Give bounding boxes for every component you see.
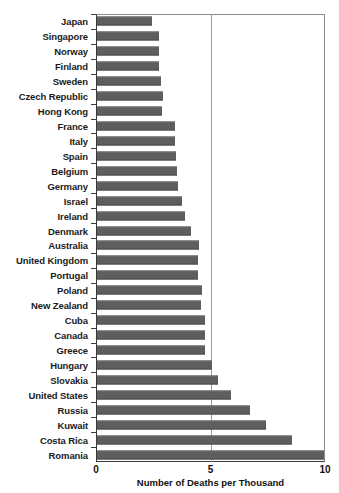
- bar-row: Russia: [0, 402, 339, 417]
- bar-row: Costa Rica: [0, 432, 339, 447]
- bar-row: Hong Kong: [0, 104, 339, 119]
- bar: [97, 121, 175, 130]
- bar: [97, 136, 175, 145]
- bar-row: Portugal: [0, 268, 339, 283]
- y-axis-tick: [91, 253, 96, 254]
- y-axis-tick: [91, 283, 96, 284]
- bar-row: France: [0, 119, 339, 134]
- y-axis-tick: [91, 14, 96, 15]
- category-label: United States: [29, 389, 88, 400]
- y-axis-tick: [91, 343, 96, 344]
- y-axis-tick: [91, 29, 96, 30]
- y-axis-tick: [91, 208, 96, 209]
- bar: [97, 390, 231, 399]
- bar-row: Spain: [0, 148, 339, 163]
- bar: [97, 196, 182, 205]
- bar: [97, 107, 162, 116]
- bar-row: Canada: [0, 328, 339, 343]
- x-tick-label: 10: [319, 464, 330, 475]
- bar-row: Belgium: [0, 163, 339, 178]
- bar: [97, 77, 161, 86]
- category-label: Sweden: [53, 76, 88, 87]
- bar: [97, 166, 177, 175]
- category-label: Slovakia: [50, 374, 88, 385]
- bar-row: Ireland: [0, 208, 339, 223]
- category-label: France: [57, 120, 88, 131]
- y-axis-tick: [91, 313, 96, 314]
- x-axis-title: Number of Deaths per Thousand: [96, 477, 325, 488]
- x-tick-label: 5: [208, 464, 214, 475]
- bar-row: Hungary: [0, 357, 339, 372]
- bar-row: Italy: [0, 133, 339, 148]
- bar: [97, 241, 199, 250]
- bar-row: Sweden: [0, 74, 339, 89]
- y-axis-tick: [91, 178, 96, 179]
- bar: [97, 32, 159, 41]
- bar: [97, 17, 152, 26]
- bar-rows-container: JapanSingaporeNorwayFinlandSwedenCzech R…: [0, 14, 339, 462]
- y-axis-tick: [91, 44, 96, 45]
- bar: [97, 47, 159, 56]
- bar: [97, 405, 250, 414]
- y-axis-tick: [91, 223, 96, 224]
- y-axis-tick: [91, 417, 96, 418]
- category-label: Israel: [64, 195, 88, 206]
- bar: [97, 151, 176, 160]
- y-axis-tick: [91, 238, 96, 239]
- y-axis-tick: [91, 59, 96, 60]
- bar-row: Poland: [0, 283, 339, 298]
- category-label: Poland: [57, 285, 88, 296]
- bar: [97, 181, 178, 190]
- category-label: Czech Republic: [19, 91, 88, 102]
- y-axis-tick: [91, 104, 96, 105]
- bar: [97, 316, 205, 325]
- y-axis-tick: [91, 298, 96, 299]
- y-axis-tick: [91, 387, 96, 388]
- category-label: Canada: [54, 330, 88, 341]
- bar: [97, 256, 198, 265]
- y-axis-tick: [91, 163, 96, 164]
- bar-row: Denmark: [0, 223, 339, 238]
- y-axis-tick: [91, 357, 96, 358]
- bar: [97, 360, 212, 369]
- y-axis-tick: [91, 74, 96, 75]
- category-label: Norway: [54, 46, 88, 57]
- category-label: Denmark: [48, 225, 88, 236]
- category-label: Kuwait: [57, 419, 88, 430]
- bar-row: United Kingdom: [0, 253, 339, 268]
- bar: [97, 301, 201, 310]
- category-label: Finland: [55, 61, 88, 72]
- category-label: Hong Kong: [38, 106, 88, 117]
- y-axis-tick: [91, 447, 96, 448]
- bar-row: Japan: [0, 14, 339, 29]
- bar: [97, 420, 266, 429]
- y-axis-tick: [91, 119, 96, 120]
- bar-row: Australia: [0, 238, 339, 253]
- bar-row: Kuwait: [0, 417, 339, 432]
- bar-row: United States: [0, 387, 339, 402]
- bar: [97, 450, 324, 459]
- bar-row: Singapore: [0, 29, 339, 44]
- y-axis-tick: [91, 148, 96, 149]
- bar-row: Finland: [0, 59, 339, 74]
- bar: [97, 92, 163, 101]
- bar-row: Germany: [0, 178, 339, 193]
- category-label: Russia: [57, 404, 88, 415]
- bar: [97, 345, 205, 354]
- y-axis-tick: [91, 89, 96, 90]
- category-label: Ireland: [58, 210, 88, 221]
- bar: [97, 271, 198, 280]
- bar-row: Czech Republic: [0, 89, 339, 104]
- bar-chart: JapanSingaporeNorwayFinlandSwedenCzech R…: [0, 0, 339, 493]
- y-axis-tick: [91, 268, 96, 269]
- y-axis-tick: [91, 328, 96, 329]
- category-label: New Zealand: [31, 300, 88, 311]
- y-axis-tick: [91, 402, 96, 403]
- category-label: Costa Rica: [40, 434, 88, 445]
- bar: [97, 226, 191, 235]
- category-label: Greece: [56, 344, 88, 355]
- bar: [97, 211, 185, 220]
- bar: [97, 331, 205, 340]
- bar: [97, 286, 202, 295]
- category-label: United Kingdom: [16, 255, 88, 266]
